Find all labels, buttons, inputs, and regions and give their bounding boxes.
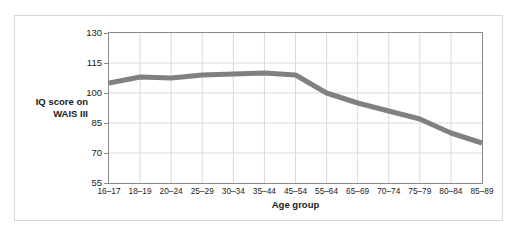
y-axis-tick-label: 70: [68, 148, 102, 158]
y-axis-tick-label: 130: [68, 28, 102, 38]
gridlines: [109, 33, 482, 183]
y-axis-title: IQ score on WAIS III: [8, 96, 88, 120]
chart-figure: IQ score on WAIS III 557085100115130 16–…: [0, 0, 520, 234]
y-axis-tick-label: 85: [68, 118, 102, 128]
line-chart-svg: [109, 33, 482, 183]
x-axis-tick-label: 85–89: [462, 186, 502, 196]
plot-area: [108, 32, 483, 184]
y-axis-tick-mark: [104, 183, 108, 184]
y-axis-tick-mark: [104, 63, 108, 64]
y-axis-tick-label: 100: [68, 88, 102, 98]
y-axis-tick-mark: [104, 123, 108, 124]
y-axis-tick-mark: [104, 33, 108, 34]
y-axis-tick-mark: [104, 93, 108, 94]
y-axis-tick-mark: [104, 153, 108, 154]
y-axis-tick-label: 115: [68, 58, 102, 68]
x-axis-title: Age group: [108, 199, 483, 210]
